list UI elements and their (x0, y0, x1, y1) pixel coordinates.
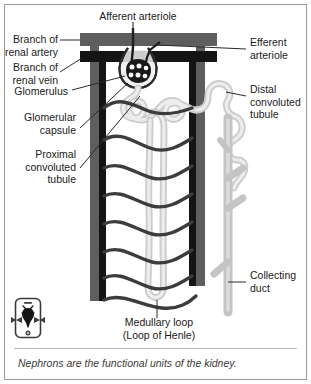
glomerulus-shape (126, 59, 151, 83)
kidney-organ-icon-glyph (10, 296, 46, 340)
caption-divider (14, 348, 297, 349)
label-afferent-arteriole: Afferent arteriole (68, 10, 208, 23)
label-glomerulus: Glomerulus (2, 85, 68, 98)
label-medullary-loop: Medullary loop (Loop of Henle) (99, 316, 219, 341)
collecting-duct-shape (214, 118, 243, 312)
label-branch-of-renal-artery: Branch of renal artery (4, 33, 58, 58)
figure-caption: Nephrons are the functional units of the… (18, 357, 293, 370)
label-proximal-convoluted-tubule: Proximal convoluted tubule (2, 148, 76, 186)
label-efferent-arteriole: Efferent arteriole (250, 36, 308, 61)
label-distal-convoluted-tubule: Distal convoluted tubule (250, 83, 310, 121)
label-collecting-duct: Collecting duct (250, 269, 308, 294)
nephron-diagram-figure: Afferent arteriole Branch of renal arter… (0, 0, 311, 384)
kidney-organ-icon[interactable] (10, 296, 46, 340)
label-glomerular-capsule: Glomerular capsule (2, 111, 76, 136)
label-branch-of-renal-vein: Branch of renal vein (4, 61, 58, 86)
